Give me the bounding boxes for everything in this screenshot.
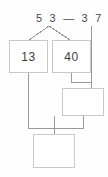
branch-line-right [49,26,70,40]
box-minuend-part-a[interactable]: 13 [9,40,48,73]
branch-line-left [29,26,49,40]
box-intermediate[interactable] [62,88,104,116]
part-b-to-intermediate-line [71,73,91,82]
box-minuend-part-b[interactable]: 40 [52,40,91,73]
box-answer[interactable] [33,134,75,168]
worksheet-canvas: 5 3 — 3 7 13 40 [0,0,108,177]
